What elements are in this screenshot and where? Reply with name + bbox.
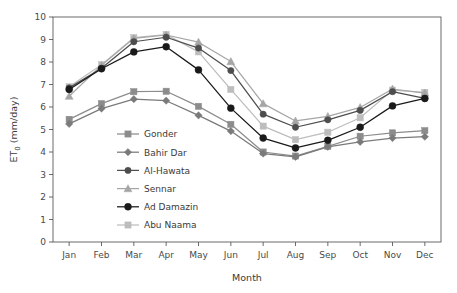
data-point-marker <box>292 137 298 143</box>
x-tick-label: Nov <box>384 250 402 260</box>
x-tick-label: Jun <box>223 250 238 260</box>
y-tick-label: 0 <box>40 237 46 247</box>
data-point-marker <box>124 149 131 156</box>
data-point-marker <box>227 105 234 112</box>
legend-label: Bahir Dar <box>144 148 187 158</box>
y-tick-label: 9 <box>40 35 46 45</box>
series-layer <box>65 31 429 161</box>
chart-legend: GonderBahir DarAl-HawataSennarAd Damazin… <box>117 129 198 230</box>
y-tick-label: 1 <box>40 215 46 225</box>
y-tick-label: 3 <box>40 170 46 180</box>
legend-item-gonder[interactable]: Gonder <box>117 129 177 139</box>
x-axis-ticks: JanFebMarAprMayJunJulAugSepOctNovDec <box>61 242 433 260</box>
x-tick-label: Apr <box>158 250 174 260</box>
series-sennar <box>65 31 429 124</box>
legend-label: Al-Hawata <box>144 166 190 176</box>
y-tick-label: 6 <box>40 102 46 112</box>
legend-item-sennar[interactable]: Sennar <box>117 184 176 194</box>
y-tick-label: 2 <box>40 192 46 202</box>
line-chart: 012345678910 JanFebMarAprMayJunJulAugSep… <box>0 0 457 293</box>
data-point-marker <box>195 112 202 119</box>
data-point-marker <box>227 127 234 134</box>
data-point-marker <box>228 67 234 73</box>
data-point-marker <box>357 115 363 121</box>
legend-item-al-hawata[interactable]: Al-Hawata <box>117 166 190 176</box>
plot-frame <box>53 17 441 242</box>
x-tick-label: Oct <box>352 250 368 260</box>
plot-border <box>53 17 441 242</box>
x-tick-label: Mar <box>125 250 142 260</box>
x-tick-label: Feb <box>94 250 110 260</box>
data-point-marker <box>421 133 428 140</box>
series-line <box>69 47 425 148</box>
data-point-marker <box>357 124 364 131</box>
data-point-marker <box>260 135 267 142</box>
chart-figure: 012345678910 JanFebMarAprMayJunJulAugSep… <box>0 0 457 293</box>
x-tick-label: Sep <box>319 250 336 260</box>
data-point-marker <box>228 121 234 127</box>
legend-item-abu-naama[interactable]: Abu Naama <box>117 220 196 230</box>
data-point-marker <box>66 86 73 93</box>
data-point-marker <box>125 131 131 137</box>
data-point-marker <box>260 123 266 129</box>
data-point-marker <box>125 203 132 210</box>
data-point-marker <box>421 95 428 102</box>
x-tick-label: May <box>189 250 208 260</box>
data-point-marker <box>227 58 235 65</box>
data-point-marker <box>195 45 201 51</box>
data-point-marker <box>324 137 331 144</box>
data-point-marker <box>130 95 137 102</box>
y-tick-label: 10 <box>35 12 47 22</box>
x-tick-label: Dec <box>416 250 433 260</box>
y-tick-label: 8 <box>40 57 46 67</box>
data-point-marker <box>125 167 131 173</box>
x-tick-label: Aug <box>287 250 305 260</box>
data-point-marker <box>163 88 169 94</box>
data-point-marker <box>292 124 298 130</box>
data-point-marker <box>125 222 131 228</box>
data-point-marker <box>389 89 395 95</box>
data-point-marker <box>163 97 170 104</box>
legend-item-bahir-dar[interactable]: Bahir Dar <box>117 148 187 158</box>
data-point-marker <box>228 86 234 92</box>
data-point-marker <box>195 103 201 109</box>
data-point-marker <box>325 129 331 135</box>
x-tick-label: Jul <box>257 250 269 260</box>
data-point-marker <box>98 65 105 72</box>
y-tick-label: 7 <box>40 80 46 90</box>
y-tick-label: 5 <box>40 125 46 135</box>
data-point-marker <box>325 117 331 123</box>
legend-item-ad-damazin[interactable]: Ad Damazin <box>117 202 198 212</box>
data-point-marker <box>163 34 169 40</box>
data-point-marker <box>195 66 202 73</box>
data-point-marker <box>163 43 170 50</box>
legend-label: Gonder <box>144 129 177 139</box>
data-point-marker <box>260 111 266 117</box>
x-axis-title: Month <box>232 272 262 283</box>
data-point-marker <box>131 89 137 95</box>
y-axis-ticks: 012345678910 <box>35 12 53 247</box>
x-tick-label: Jan <box>61 250 76 260</box>
data-point-marker <box>292 144 299 151</box>
y-axis-title: ET0 (mm/day) <box>8 97 22 163</box>
data-point-marker <box>131 39 137 45</box>
legend-label: Ad Damazin <box>144 202 198 212</box>
series-abu-naama <box>66 31 428 142</box>
legend-label: Sennar <box>144 184 176 194</box>
data-point-marker <box>389 102 396 109</box>
data-point-marker <box>357 107 363 113</box>
legend-label: Abu Naama <box>144 220 196 230</box>
data-point-marker <box>130 48 137 55</box>
y-tick-label: 4 <box>40 147 46 157</box>
